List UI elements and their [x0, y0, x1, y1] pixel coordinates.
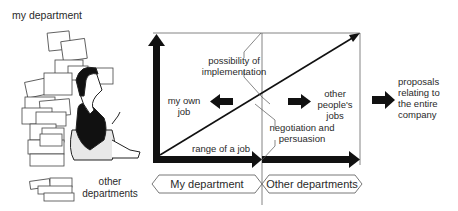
label-range-of-job: range of a job — [192, 143, 250, 154]
label-negotiation-line2: persuasion — [262, 133, 342, 144]
vertical-axis-arrow — [148, 34, 165, 163]
label-proposals-line2: relating to — [398, 87, 458, 98]
tag-other-departments: Other departments — [262, 178, 362, 191]
label-proposals: proposals relating to the entire company — [398, 76, 458, 120]
label-other-people-line2: people's — [312, 99, 358, 110]
label-proposals-line4: company — [398, 109, 458, 120]
tag-my-department: My department — [152, 178, 262, 191]
label-my-own-line2: job — [164, 106, 204, 117]
label-my-department-top: my department — [12, 10, 82, 21]
label-my-own-job: my own job — [164, 95, 204, 117]
arrow-left-my-own-job — [210, 94, 233, 109]
label-possibility-line1: possibility of — [190, 55, 278, 66]
label-proposals-line1: proposals — [398, 76, 458, 87]
label-possibility: possibility of implementation — [190, 55, 278, 77]
horizontal-axis-arrow — [153, 151, 360, 168]
label-other-departments: other departments — [76, 176, 144, 200]
label-possibility-line2: implementation — [190, 66, 278, 77]
label-other-peoples-jobs: other people's jobs — [312, 88, 358, 121]
small-paper-stack — [30, 178, 74, 201]
label-other-line2: departments — [76, 188, 144, 200]
label-proposals-line3: the entire — [398, 98, 458, 109]
label-negotiation: negotiation and persuasion — [262, 122, 342, 144]
label-other-people-line1: other — [312, 88, 358, 99]
label-other-line1: other — [76, 176, 144, 188]
label-my-own-line1: my own — [164, 95, 204, 106]
label-other-people-line3: jobs — [312, 110, 358, 121]
label-negotiation-line1: negotiation and — [262, 122, 342, 133]
arrow-right-proposals — [372, 91, 395, 109]
arrow-right-other-jobs — [288, 94, 311, 109]
